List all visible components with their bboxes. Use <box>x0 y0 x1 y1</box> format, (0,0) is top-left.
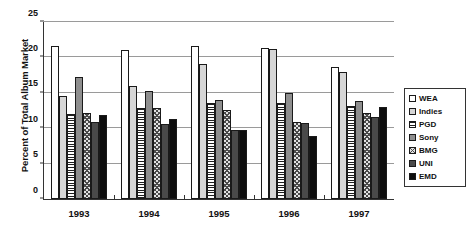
bar-group-bars <box>261 22 317 199</box>
bar-emd-1996 <box>309 136 317 199</box>
bar-group-bars <box>191 22 247 199</box>
bar-uni-1996 <box>301 123 309 199</box>
legend-swatch-icon <box>409 147 416 154</box>
bar-indies-1997 <box>339 72 347 199</box>
legend-label: PGD <box>419 121 436 129</box>
legend-item-pgd[interactable]: PGD <box>409 118 462 131</box>
bar-chart: Percent of Total Album Market 0510152025… <box>0 0 475 245</box>
bar-emd-1994 <box>169 119 177 199</box>
x-axis-label-1994: 1994 <box>138 208 159 219</box>
legend-item-uni[interactable]: UNI <box>409 157 462 170</box>
y-axis-tick-label: 25 <box>28 8 38 18</box>
bar-emd-1993 <box>99 115 107 199</box>
x-axis-label-1993: 1993 <box>68 208 89 219</box>
legend-label: Indies <box>419 108 442 116</box>
bar-indies-1996 <box>269 49 277 199</box>
bar-group: 1993 <box>44 22 114 199</box>
legend-label: EMD <box>419 173 437 181</box>
x-axis-label-1995: 1995 <box>208 208 229 219</box>
bar-wea-1996 <box>261 48 269 199</box>
bar-group-bars <box>331 22 387 199</box>
legend-label: Sony <box>419 134 439 142</box>
legend-item-wea[interactable]: WEA <box>409 92 462 105</box>
bar-uni-1994 <box>161 124 169 199</box>
legend-label: UNI <box>419 160 433 168</box>
bar-group: 1997 <box>324 22 394 199</box>
bar-bmg-1994 <box>153 108 161 199</box>
bar-indies-1995 <box>199 64 207 199</box>
legend-swatch-icon <box>409 173 416 180</box>
bar-sony-1995 <box>215 100 223 199</box>
plot-area: 0510152025 19931994199519961997 <box>43 22 394 200</box>
bar-sony-1996 <box>285 93 293 199</box>
bar-group: 1995 <box>184 22 254 199</box>
bar-pgd-1996 <box>277 103 285 199</box>
bar-pgd-1997 <box>347 106 355 199</box>
bar-indies-1994 <box>129 86 137 199</box>
y-axis-tick-label: 0 <box>33 185 38 195</box>
bar-group-bars <box>121 22 177 199</box>
legend-item-emd[interactable]: EMD <box>409 170 462 183</box>
x-axis-label-1996: 1996 <box>278 208 299 219</box>
bar-uni-1997 <box>371 117 379 199</box>
legend-swatch-icon <box>409 95 416 102</box>
bar-wea-1995 <box>191 46 199 199</box>
bar-group: 1994 <box>114 22 184 199</box>
legend-swatch-icon <box>409 160 416 167</box>
y-axis-tick-label: 5 <box>33 149 38 159</box>
bar-sony-1997 <box>355 101 363 199</box>
bar-emd-1995 <box>239 130 247 199</box>
legend-item-bmg[interactable]: BMG <box>409 144 462 157</box>
bar-wea-1993 <box>51 46 59 199</box>
bar-group-bars <box>51 22 107 199</box>
y-axis-tick-label: 20 <box>28 43 38 53</box>
bar-wea-1997 <box>331 67 339 199</box>
legend-label: WEA <box>419 95 438 103</box>
y-axis-tick-label: 10 <box>28 114 38 124</box>
legend-label: BMG <box>419 147 438 155</box>
legend: WEAIndiesPGDSonyBMGUNIEMD <box>404 88 466 187</box>
bar-pgd-1994 <box>137 108 145 199</box>
bar-sony-1994 <box>145 91 153 199</box>
bar-pgd-1995 <box>207 103 215 199</box>
bar-emd-1997 <box>379 107 387 199</box>
bar-indies-1993 <box>59 96 67 199</box>
bar-uni-1995 <box>231 130 239 199</box>
legend-item-indies[interactable]: Indies <box>409 105 462 118</box>
bar-wea-1994 <box>121 50 129 199</box>
bar-bmg-1997 <box>363 113 371 199</box>
y-axis-tick-label: 15 <box>28 78 38 88</box>
bar-bmg-1996 <box>293 122 301 199</box>
bar-sony-1993 <box>75 77 83 199</box>
bar-pgd-1993 <box>67 114 75 199</box>
bar-group: 1996 <box>254 22 324 199</box>
x-axis-label-1997: 1997 <box>348 208 369 219</box>
bar-bmg-1995 <box>223 110 231 199</box>
legend-swatch-icon <box>409 134 416 141</box>
legend-swatch-icon <box>409 121 416 128</box>
legend-swatch-icon <box>409 108 416 115</box>
bar-uni-1993 <box>91 122 99 199</box>
bar-groups: 19931994199519961997 <box>44 22 394 199</box>
bar-bmg-1993 <box>83 113 91 199</box>
legend-item-sony[interactable]: Sony <box>409 131 462 144</box>
